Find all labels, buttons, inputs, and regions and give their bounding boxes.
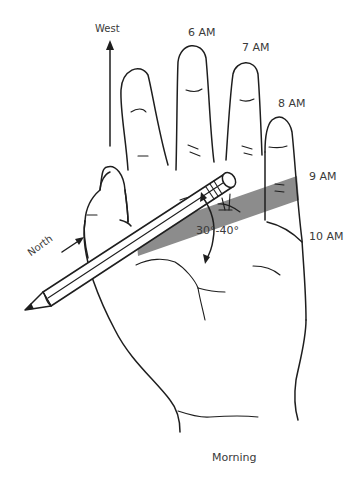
hand-outline-right [295, 320, 306, 420]
figure-caption: Morning [212, 452, 257, 463]
angle-label: 30°-40° [196, 225, 239, 236]
west-label: West [95, 24, 120, 34]
sun-clock-hand-diagram: West 6 AM 7 AM 8 AM 9 AM 10 AM 30°-40° N… [0, 0, 364, 484]
ring-finger [226, 63, 262, 160]
north-arrow-icon [62, 237, 84, 252]
time-label-7am: 7 AM [242, 42, 270, 53]
middle-finger [176, 46, 214, 170]
time-label-8am: 8 AM [278, 98, 306, 109]
time-label-10am: 10 AM [309, 231, 344, 242]
west-arrow-icon [106, 40, 114, 146]
time-label-6am: 6 AM [188, 27, 216, 38]
pencil [25, 170, 238, 310]
time-label-9am: 9 AM [309, 171, 337, 182]
index-finger [121, 69, 168, 170]
